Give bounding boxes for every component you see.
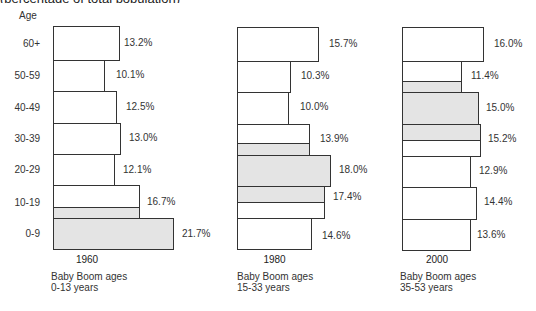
age-label-40-49: 40-49 bbox=[0, 102, 40, 113]
bar-1960-60plus bbox=[53, 26, 120, 61]
baby-boom-shade bbox=[403, 93, 478, 124]
baby-boom-shade bbox=[403, 125, 480, 141]
baby-boom-shade bbox=[238, 156, 330, 186]
bar-1960-30-39 bbox=[53, 123, 121, 155]
value-2000-0-9: 13.6% bbox=[477, 229, 505, 240]
value-2000-40-49: 15.0% bbox=[486, 102, 514, 113]
baby-boom-shade bbox=[403, 81, 461, 92]
bar-2000-60plus bbox=[402, 27, 484, 62]
bar-1960-50-59 bbox=[53, 60, 105, 92]
bar-1960-40-49 bbox=[53, 91, 117, 124]
value-2000-60plus: 16.0% bbox=[494, 38, 522, 49]
bar-1980-20-29 bbox=[237, 155, 331, 187]
year-label-1980: 1980 bbox=[237, 254, 312, 265]
baby-boom-shade bbox=[54, 207, 139, 218]
bar-1980-10-19 bbox=[237, 186, 325, 219]
caption-line2: 0-13 years bbox=[51, 282, 127, 293]
bar-2000-40-49 bbox=[402, 92, 479, 125]
age-label-10-19: 10-19 bbox=[0, 197, 40, 208]
bar-1960-10-19 bbox=[53, 185, 140, 219]
baby-boom-shade bbox=[238, 143, 309, 155]
baby-boom-shade bbox=[54, 219, 173, 249]
value-2000-50-59: 11.4% bbox=[471, 70, 499, 81]
bar-1960-0-9 bbox=[53, 218, 174, 250]
caption-1980: Baby Boom ages 15-33 years bbox=[237, 271, 313, 293]
age-axis-label: Age bbox=[19, 10, 37, 21]
age-label-0-9: 0-9 bbox=[0, 228, 40, 239]
age-label-50-59: 50-59 bbox=[0, 70, 40, 81]
bar-2000-20-29 bbox=[402, 156, 471, 188]
value-1980-10-19: 17.4% bbox=[333, 191, 361, 202]
bar-2000-50-59 bbox=[402, 61, 462, 93]
value-1980-50-59: 10.3% bbox=[301, 70, 329, 81]
bar-1980-50-59 bbox=[237, 61, 291, 93]
bar-2000-0-9 bbox=[402, 219, 471, 251]
value-1960-50-59: 10.1% bbox=[116, 69, 144, 80]
chart-title-cut: (percentage of total population) bbox=[0, 0, 536, 3]
value-1980-0-9: 14.6% bbox=[322, 230, 350, 241]
caption-1960: Baby Boom ages 0-13 years bbox=[51, 271, 127, 293]
value-1960-60plus: 13.2% bbox=[124, 37, 152, 48]
year-label-1960: 1960 bbox=[53, 254, 121, 265]
caption-2000: Baby Boom ages 35-53 years bbox=[400, 271, 476, 293]
value-1960-30-39: 13.0% bbox=[129, 132, 157, 143]
age-label-60plus: 60+ bbox=[0, 38, 40, 49]
value-1960-0-9: 21.7% bbox=[182, 228, 210, 239]
baby-boom-shade bbox=[238, 187, 324, 203]
value-1980-60plus: 15.7% bbox=[329, 38, 357, 49]
bar-2000-30-39 bbox=[402, 124, 481, 157]
value-1980-40-49: 10.0% bbox=[300, 101, 328, 112]
bar-2000-10-19 bbox=[402, 187, 477, 220]
age-label-20-29: 20-29 bbox=[0, 164, 40, 175]
value-1980-20-29: 18.0% bbox=[339, 164, 367, 175]
value-1980-30-39: 13.9% bbox=[320, 133, 348, 144]
value-1960-20-29: 12.1% bbox=[123, 164, 151, 175]
bar-1960-20-29 bbox=[53, 154, 115, 186]
bar-1980-30-39 bbox=[237, 124, 310, 156]
bar-1980-0-9 bbox=[237, 218, 312, 250]
value-2000-10-19: 14.4% bbox=[484, 196, 512, 207]
bar-1980-40-49 bbox=[237, 92, 289, 125]
caption-line1: Baby Boom ages bbox=[51, 271, 127, 282]
value-2000-30-39: 15.2% bbox=[488, 133, 516, 144]
bar-1980-60plus bbox=[237, 27, 319, 62]
caption-line1: Baby Boom ages bbox=[237, 271, 313, 282]
value-1960-10-19: 16.7% bbox=[147, 196, 175, 207]
value-1960-40-49: 12.5% bbox=[126, 101, 154, 112]
age-label-30-39: 30-39 bbox=[0, 133, 40, 144]
caption-line2: 35-53 years bbox=[400, 282, 476, 293]
caption-line1: Baby Boom ages bbox=[400, 271, 476, 282]
year-label-2000: 2000 bbox=[402, 254, 472, 265]
caption-line2: 15-33 years bbox=[237, 282, 313, 293]
value-2000-20-29: 12.9% bbox=[479, 165, 507, 176]
